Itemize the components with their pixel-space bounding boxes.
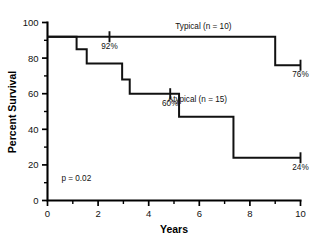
- x-axis-title: Years: [160, 223, 188, 235]
- series-label: Typical (n = 10): [175, 22, 231, 31]
- percent-label: 92%: [101, 42, 117, 51]
- x-tick-label: 4: [146, 208, 151, 219]
- survival-curve: [48, 37, 301, 65]
- y-tick-label: 100: [23, 17, 39, 28]
- x-tick-label: 10: [295, 208, 306, 219]
- x-tick-label: 2: [95, 208, 100, 219]
- y-axis-title: Percent Survival: [6, 71, 18, 153]
- kaplan-meier-chart: 0204060801000246810 92%76%60%24% Typical…: [0, 0, 319, 240]
- chart-annotations: p = 0.02: [61, 174, 91, 183]
- series-label: Atypical (n = 15): [168, 95, 228, 104]
- chart-point-labels: 92%76%60%24%: [101, 42, 308, 172]
- x-tick-label: 0: [45, 208, 50, 219]
- survival-chart-figure: 0204060801000246810 92%76%60%24% Typical…: [0, 0, 319, 240]
- x-tick-label: 6: [197, 208, 202, 219]
- p-value-annotation: p = 0.02: [61, 174, 91, 183]
- chart-series-labels: Typical (n = 10)Atypical (n = 15): [168, 22, 232, 104]
- chart-tick-labels: 0204060801000246810: [23, 17, 306, 219]
- percent-label: 24%: [292, 163, 308, 172]
- y-tick-label: 80: [28, 53, 39, 64]
- y-tick-label: 20: [28, 159, 39, 170]
- y-tick-label: 60: [28, 88, 39, 99]
- x-tick-label: 8: [247, 208, 252, 219]
- y-tick-label: 0: [33, 195, 38, 206]
- y-tick-label: 40: [28, 124, 39, 135]
- percent-label: 76%: [292, 70, 308, 79]
